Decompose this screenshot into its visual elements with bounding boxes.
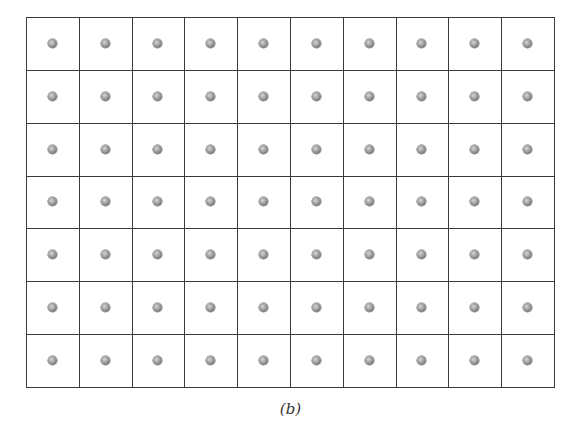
atom-dot-icon: [153, 145, 162, 154]
atom-dot-icon: [101, 92, 110, 101]
lattice-cell: [501, 70, 554, 123]
atom-dot-icon: [206, 250, 215, 259]
atom-dot-icon: [470, 250, 479, 259]
figure-caption: (b): [0, 400, 581, 418]
atom-dot-icon: [101, 303, 110, 312]
atom-dot-icon: [259, 197, 268, 206]
atom-dot-icon: [48, 92, 57, 101]
lattice-cell: [290, 176, 343, 229]
atom-dot-icon: [259, 356, 268, 365]
atom-dot-icon: [417, 92, 426, 101]
atom-dot-icon: [312, 303, 321, 312]
lattice-cell: [343, 334, 396, 387]
atom-dot-icon: [101, 356, 110, 365]
atom-dot-icon: [312, 145, 321, 154]
lattice-cell: [26, 281, 79, 334]
atom-dot-icon: [101, 250, 110, 259]
lattice-cell: [343, 281, 396, 334]
atom-dot-icon: [48, 250, 57, 259]
lattice-cell: [343, 70, 396, 123]
atom-dot-icon: [470, 145, 479, 154]
lattice-cell: [290, 228, 343, 281]
atom-dot-icon: [259, 250, 268, 259]
lattice-cell: [343, 228, 396, 281]
lattice-cell: [448, 281, 501, 334]
lattice-cell: [237, 17, 290, 70]
lattice-cell: [501, 334, 554, 387]
atom-dot-icon: [523, 303, 532, 312]
lattice-cell: [343, 17, 396, 70]
lattice-cell: [26, 70, 79, 123]
atom-dot-icon: [523, 250, 532, 259]
atom-dot-icon: [365, 356, 374, 365]
atom-dot-icon: [523, 356, 532, 365]
lattice-cell: [396, 228, 449, 281]
lattice-cell: [448, 70, 501, 123]
atom-dot-icon: [48, 303, 57, 312]
lattice-cell: [290, 281, 343, 334]
lattice-cell: [79, 123, 132, 176]
atom-dot-icon: [365, 145, 374, 154]
lattice-cell: [132, 123, 185, 176]
lattice-cell: [237, 123, 290, 176]
lattice-cell: [132, 17, 185, 70]
atom-dot-icon: [153, 250, 162, 259]
atom-dot-icon: [153, 39, 162, 48]
lattice-cell: [237, 228, 290, 281]
lattice-cell: [79, 228, 132, 281]
atom-dot-icon: [206, 197, 215, 206]
atom-dot-icon: [417, 303, 426, 312]
lattice-cell: [26, 334, 79, 387]
atom-dot-icon: [470, 303, 479, 312]
atom-dot-icon: [101, 197, 110, 206]
lattice-cell: [184, 334, 237, 387]
lattice-cell: [501, 281, 554, 334]
lattice-cell: [237, 281, 290, 334]
lattice-cell: [290, 70, 343, 123]
atom-dot-icon: [312, 197, 321, 206]
atom-dot-icon: [312, 39, 321, 48]
lattice-cell: [396, 176, 449, 229]
lattice-cell: [184, 176, 237, 229]
lattice-cell: [132, 176, 185, 229]
lattice-cell: [396, 70, 449, 123]
atom-dot-icon: [470, 92, 479, 101]
atom-dot-icon: [523, 92, 532, 101]
atom-dot-icon: [153, 356, 162, 365]
atom-dot-icon: [259, 92, 268, 101]
lattice-cell: [237, 70, 290, 123]
atom-dot-icon: [259, 39, 268, 48]
atom-dot-icon: [259, 303, 268, 312]
lattice-cell: [448, 334, 501, 387]
lattice-cell: [132, 70, 185, 123]
lattice-cell: [184, 281, 237, 334]
lattice-cell: [26, 123, 79, 176]
atom-dot-icon: [470, 197, 479, 206]
lattice-cell: [79, 334, 132, 387]
lattice-cell: [237, 334, 290, 387]
lattice-cell: [501, 17, 554, 70]
lattice-cell: [396, 334, 449, 387]
atom-dot-icon: [470, 356, 479, 365]
atom-dot-icon: [365, 39, 374, 48]
atom-dot-icon: [365, 197, 374, 206]
lattice-cell: [396, 281, 449, 334]
atom-dot-icon: [48, 145, 57, 154]
lattice-cell: [448, 176, 501, 229]
lattice-cell: [448, 228, 501, 281]
lattice-cell: [184, 70, 237, 123]
atom-dot-icon: [312, 92, 321, 101]
lattice-cell: [26, 176, 79, 229]
lattice-cell: [396, 17, 449, 70]
lattice-cell: [184, 228, 237, 281]
lattice-cell: [396, 123, 449, 176]
atom-dot-icon: [48, 356, 57, 365]
atom-dot-icon: [206, 356, 215, 365]
atom-dot-icon: [365, 92, 374, 101]
lattice-cell: [290, 17, 343, 70]
atom-dot-icon: [153, 303, 162, 312]
atom-dot-icon: [523, 197, 532, 206]
lattice-cell: [448, 123, 501, 176]
atom-dot-icon: [101, 39, 110, 48]
atom-dot-icon: [365, 250, 374, 259]
